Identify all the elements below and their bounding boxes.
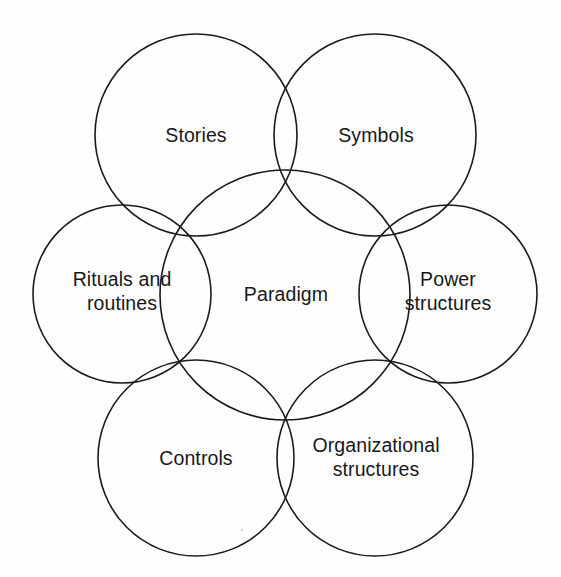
circle-controls[interactable] (98, 360, 294, 556)
circle-paradigm[interactable] (160, 170, 410, 420)
circle-power-structures[interactable] (359, 205, 537, 383)
diagram-canvas: StoriesSymbolsRituals and routinesParadi… (0, 0, 561, 577)
circle-rituals-and-routines[interactable] (33, 205, 211, 383)
circle-group (33, 34, 537, 556)
cultural-web-diagram (0, 0, 561, 577)
circle-organizational-structures[interactable] (277, 360, 473, 556)
scan-speck (241, 529, 243, 531)
